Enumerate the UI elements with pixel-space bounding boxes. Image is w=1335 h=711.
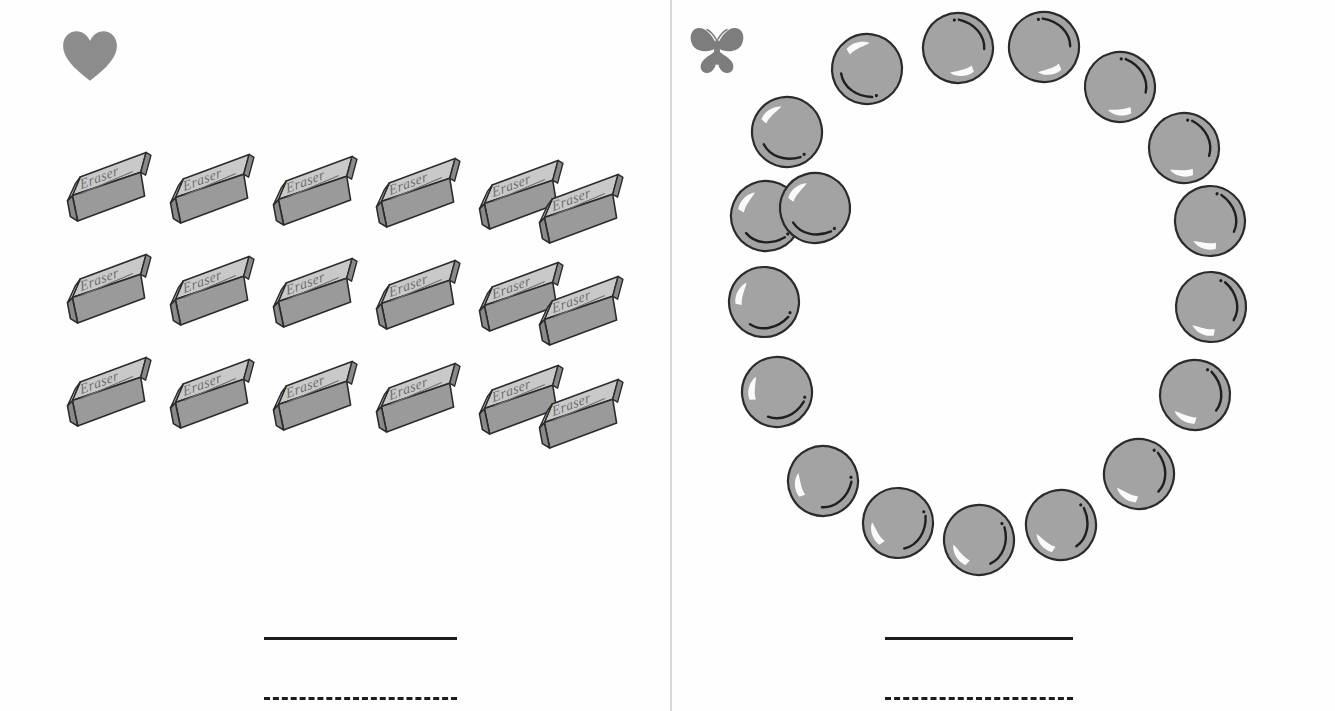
- answer-line-dashed-right[interactable]: [885, 697, 1073, 700]
- marble-item: [1022, 486, 1100, 564]
- marble-item: [1005, 8, 1083, 86]
- marble-item: [940, 501, 1018, 579]
- eraser-item: Eraser: [373, 161, 477, 245]
- marble-item: [1156, 356, 1234, 434]
- eraser-item: Eraser: [373, 366, 477, 450]
- marble-ring: [672, 0, 1335, 600]
- heart-icon: [62, 28, 118, 84]
- marble-item: [784, 442, 862, 520]
- marble-item: [725, 263, 803, 341]
- marble-item: [1171, 182, 1249, 260]
- eraser-item: Eraser: [167, 362, 271, 446]
- eraser-item: Eraser: [536, 177, 640, 261]
- eraser-item: Eraser: [167, 157, 271, 241]
- marble-item: [1100, 435, 1178, 513]
- eraser-item: Eraser: [64, 360, 168, 444]
- eraser-grid: EraserEraserEraserEraserEraserEraserEras…: [64, 155, 644, 455]
- answer-line-dashed-left[interactable]: [264, 697, 457, 700]
- panel-left: EraserEraserEraserEraserEraserEraserEras…: [0, 0, 670, 711]
- worksheet-page: EraserEraserEraserEraserEraserEraserEras…: [0, 0, 1335, 711]
- marble-item: [1145, 109, 1223, 187]
- marble-item: [776, 169, 854, 247]
- marble-item: [1172, 268, 1250, 346]
- panel-right: [672, 0, 1335, 711]
- eraser-item: Eraser: [270, 159, 374, 243]
- eraser-item: Eraser: [270, 261, 374, 345]
- answer-line-solid-left[interactable]: [264, 637, 457, 640]
- eraser-item: Eraser: [270, 364, 374, 448]
- eraser-item: Eraser: [373, 263, 477, 347]
- eraser-item: Eraser: [167, 259, 271, 343]
- eraser-item: Eraser: [64, 155, 168, 239]
- eraser-item: Eraser: [536, 279, 640, 363]
- answer-line-solid-right[interactable]: [885, 637, 1073, 640]
- marble-item: [859, 484, 937, 562]
- eraser-item: Eraser: [536, 382, 640, 466]
- marble-item: [919, 9, 997, 87]
- marble-item: [748, 93, 826, 171]
- marble-item: [738, 353, 816, 431]
- marble-item: [828, 30, 906, 108]
- eraser-item: Eraser: [64, 257, 168, 341]
